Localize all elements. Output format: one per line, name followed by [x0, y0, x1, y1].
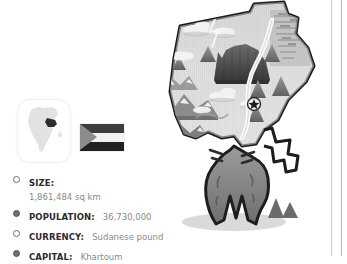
fact-row-currency: CURRENCY: Sudanese pound	[0, 228, 180, 244]
fact-value-size: 1,861,484 sq km	[29, 191, 180, 204]
bullet-filled-icon	[13, 250, 20, 257]
bullet-hollow-icon	[13, 176, 20, 183]
africa-continent-icon	[18, 100, 70, 162]
bullet-filled-icon	[13, 210, 20, 217]
fact-label-currency: CURRENCY:	[29, 232, 84, 242]
flag-hoist-triangle	[80, 124, 97, 150]
lobe-foothills	[268, 198, 298, 218]
fact-row-size: SIZE: 1,861,484 sq km	[0, 174, 180, 204]
page-border-outer	[341, 0, 342, 256]
fact-row-population: POPULATION: 36,730,000	[0, 208, 180, 224]
bullet-hollow-icon	[13, 230, 20, 237]
fact-list: SIZE: 1,861,484 sq km POPULATION: 36,730…	[0, 174, 180, 264]
country-info-panel: SIZE: 1,861,484 sq km POPULATION: 36,730…	[0, 96, 180, 264]
fact-label-capital: CAPITAL:	[29, 252, 73, 262]
sudan-flag-icon	[80, 124, 124, 151]
emblem-row	[0, 96, 180, 170]
fact-value-population: 36,730,000	[103, 212, 152, 222]
fact-row-capital: CAPITAL: Khartoum	[0, 248, 180, 264]
southern-lobe	[182, 146, 298, 231]
fact-label-size: SIZE:	[29, 178, 54, 188]
capital-star-icon	[248, 98, 261, 111]
fact-value-currency: Sudanese pound	[92, 232, 163, 242]
fact-value-capital: Khartoum	[81, 252, 123, 262]
africa-locator-card	[18, 100, 70, 162]
fact-label-population: POPULATION:	[29, 212, 95, 222]
southern-border-detail	[264, 128, 298, 172]
